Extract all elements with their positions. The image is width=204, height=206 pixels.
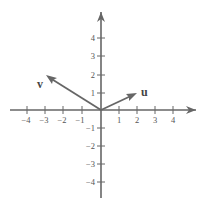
y-axis: [97, 12, 105, 198]
y-tick-label: 2: [91, 70, 95, 80]
x-tick-label: 3: [153, 115, 157, 125]
x-tick-label: −3: [39, 115, 48, 125]
y-tick-label: −3: [86, 159, 95, 169]
y-tick-label: −4: [86, 177, 96, 187]
x-tick-label: 2: [135, 115, 139, 125]
x-tick-label: 1: [117, 115, 121, 125]
vector-u: u: [101, 85, 148, 110]
vector-v-arrowhead-icon: [46, 75, 57, 84]
x-tick-labels: −4 −3 −2 −1 1 2 3 4: [21, 115, 175, 125]
y-tick-label: 3: [91, 51, 95, 61]
y-tick-label: −2: [86, 141, 95, 151]
vector-u-label: u: [141, 85, 148, 99]
y-tick-label: −1: [86, 123, 95, 133]
y-tick-label: 4: [91, 33, 96, 43]
vector-diagram: −4 −3 −2 −1 1 2 3 4 4 3 2 1 −1 −2 −3 −4 …: [0, 0, 204, 206]
x-tick-label: −2: [57, 115, 66, 125]
x-tick-label: 4: [171, 115, 176, 125]
x-tick-label: −4: [21, 115, 31, 125]
y-tick-label: 1: [91, 88, 95, 98]
x-tick-label: −1: [75, 115, 84, 125]
vector-v-label: v: [37, 77, 43, 91]
